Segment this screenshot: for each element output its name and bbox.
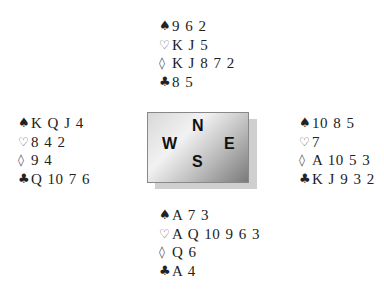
- west-hearts-cards: 8 4 2: [31, 133, 66, 152]
- diamond-icon: ◊: [299, 151, 312, 170]
- south-clubs: ♣ A 4: [159, 262, 260, 281]
- south-diamonds-cards: Q 6: [172, 243, 197, 262]
- north-diamonds-cards: K J 8 7 2: [172, 54, 235, 73]
- south-hand: ♠ A 7 3 ♡ A Q 10 9 6 3 ◊ Q 6 ♣ A 4: [159, 206, 260, 280]
- west-clubs: ♣ Q 10 7 6: [18, 170, 90, 189]
- heart-icon: ♡: [18, 133, 31, 152]
- spade-icon: ♠: [299, 114, 312, 133]
- east-clubs-cards: K J 9 3 2: [312, 170, 375, 189]
- spade-icon: ♠: [159, 206, 172, 225]
- east-diamonds-cards: A 10 5 3: [312, 151, 370, 170]
- west-hand: ♠ K Q J 4 ♡ 8 4 2 ◊ 9 4 ♣ Q 10 7 6: [18, 114, 90, 188]
- east-hand: ♠ 10 8 5 ♡ 7 ◊ A 10 5 3 ♣ K J 9 3 2: [299, 114, 375, 188]
- diamond-icon: ◊: [18, 151, 31, 170]
- club-icon: ♣: [18, 170, 31, 189]
- spade-icon: ♠: [18, 114, 31, 133]
- north-diamonds: ◊ K J 8 7 2: [159, 54, 235, 73]
- south-spades: ♠ A 7 3: [159, 206, 260, 225]
- heart-icon: ♡: [159, 225, 172, 244]
- diamond-icon: ◊: [159, 54, 172, 73]
- west-clubs-cards: Q 10 7 6: [31, 170, 90, 189]
- north-spades-cards: 9 6 2: [172, 17, 207, 36]
- heart-icon: ♡: [299, 133, 312, 152]
- north-hearts: ♡ K J 5: [159, 36, 235, 55]
- south-hearts-cards: A Q 10 9 6 3: [172, 225, 260, 244]
- diamond-icon: ◊: [159, 243, 172, 262]
- spade-icon: ♠: [159, 17, 172, 36]
- south-spades-cards: A 7 3: [172, 206, 209, 225]
- north-clubs-cards: 8 5: [172, 73, 193, 92]
- east-hearts: ♡ 7: [299, 133, 375, 152]
- east-spades: ♠ 10 8 5: [299, 114, 375, 133]
- east-diamonds: ◊ A 10 5 3: [299, 151, 375, 170]
- club-icon: ♣: [299, 170, 312, 189]
- east-clubs: ♣ K J 9 3 2: [299, 170, 375, 189]
- south-hearts: ♡ A Q 10 9 6 3: [159, 225, 260, 244]
- west-spades-cards: K Q J 4: [31, 114, 84, 133]
- club-icon: ♣: [159, 262, 172, 281]
- heart-icon: ♡: [159, 36, 172, 55]
- east-hearts-cards: 7: [312, 133, 320, 152]
- north-spades: ♠ 9 6 2: [159, 17, 235, 36]
- club-icon: ♣: [159, 73, 172, 92]
- west-diamonds-cards: 9 4: [31, 151, 52, 170]
- west-diamonds: ◊ 9 4: [18, 151, 90, 170]
- compass-south-label: S: [192, 153, 203, 171]
- compass-west-label: W: [162, 135, 177, 153]
- south-diamonds: ◊ Q 6: [159, 243, 260, 262]
- west-hearts: ♡ 8 4 2: [18, 133, 90, 152]
- compass-east-label: E: [224, 135, 235, 153]
- compass-box: N W E S: [147, 112, 249, 183]
- north-hearts-cards: K J 5: [172, 36, 208, 55]
- south-clubs-cards: A 4: [172, 262, 196, 281]
- west-spades: ♠ K Q J 4: [18, 114, 90, 133]
- north-hand: ♠ 9 6 2 ♡ K J 5 ◊ K J 8 7 2 ♣ 8 5: [159, 17, 235, 91]
- compass-north-label: N: [192, 117, 204, 135]
- east-spades-cards: 10 8 5: [312, 114, 355, 133]
- north-clubs: ♣ 8 5: [159, 73, 235, 92]
